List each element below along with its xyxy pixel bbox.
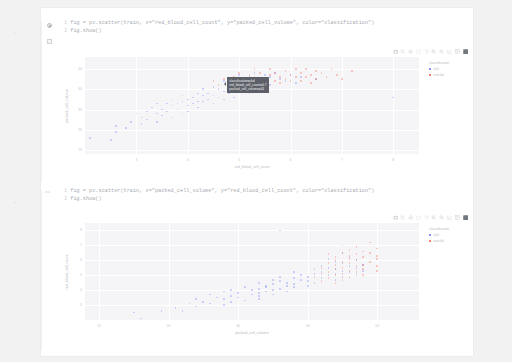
chart-legend-1[interactable]: classification ckd notckd [429,61,449,78]
scatter-point[interactable] [156,121,158,123]
autoscale-icon[interactable] [447,215,452,220]
scatter-point[interactable] [300,279,302,281]
plotly-modebar-2[interactable] [393,212,468,223]
scatter-point[interactable] [335,279,337,281]
scatter-point[interactable] [295,76,297,78]
scatter-point[interactable] [197,107,199,109]
scatter-point[interactable] [223,291,225,293]
plotly-figure-2[interactable]: classification ckd notckd 34567810203040… [59,212,471,342]
scatter-point[interactable] [238,74,240,76]
scatter-point[interactable] [269,74,271,76]
scatter-point[interactable] [342,267,344,269]
scatter-point[interactable] [195,306,197,308]
scatter-point[interactable] [307,280,309,282]
scatter-point[interactable] [300,76,302,78]
notebook-cell-1[interactable]: 1 fig = px.scatter(train, x="red_blood_c… [41,22,473,182]
run-indicator-icon[interactable] [47,23,52,28]
scatter-point[interactable] [130,121,132,123]
scatter-point[interactable] [349,255,351,257]
scatter-point[interactable] [310,82,312,84]
scatter-point[interactable] [223,304,225,306]
scatter-point[interactable] [286,291,288,293]
scatter-point[interactable] [125,127,127,129]
legend-entry-ckd[interactable]: ckd [429,67,449,71]
scatter-point[interactable] [115,125,117,127]
scatter-point[interactable] [140,318,142,320]
scatter-point[interactable] [279,276,281,278]
scatter-point[interactable] [156,113,158,115]
scatter-point[interactable] [376,258,378,260]
scatter-point[interactable] [258,282,260,284]
scatter-point[interactable] [223,298,225,300]
scatter-point[interactable] [307,285,309,287]
scatter-point[interactable] [356,253,358,255]
scatter-point[interactable] [89,137,91,139]
scatter-point[interactable] [182,310,184,312]
scatter-point[interactable] [285,70,287,72]
scatter-point[interactable] [315,78,317,80]
zoom-out-icon[interactable] [439,215,444,220]
gutter-collapse-marker-1[interactable]: — [14,30,17,34]
scatter-point[interactable] [342,261,344,263]
scatter-point[interactable] [356,271,358,273]
scatter-point[interactable] [286,285,288,287]
scatter-point[interactable] [202,101,204,103]
scatter-point[interactable] [264,74,266,76]
scatter-point[interactable] [349,258,351,260]
legend-entry-ckd[interactable]: ckd [429,233,449,237]
scatter-point[interactable] [295,68,297,70]
scatter-point[interactable] [362,256,364,258]
scatter-point[interactable] [223,99,225,101]
scatter-point[interactable] [326,76,328,78]
plotly-logo-icon[interactable] [463,49,468,54]
scatter-point[interactable] [182,113,184,115]
scatter-point[interactable] [274,80,276,82]
scatter-point[interactable] [213,86,215,88]
cell-1-code-line-2[interactable]: 2 fig.show() [64,28,102,36]
lasso-icon[interactable] [424,49,429,54]
scatter-point[interactable] [321,277,323,279]
scatter-point[interactable] [202,301,204,303]
scatter-point[interactable] [335,256,337,258]
legend-entry-notckd[interactable]: notckd [429,239,449,243]
scatter-point[interactable] [272,294,274,296]
scatter-point[interactable] [362,270,364,272]
scatter-point[interactable] [272,283,274,285]
scatter-point[interactable] [369,252,371,254]
scatter-point[interactable] [321,280,323,282]
scatter-point[interactable] [335,261,337,263]
scatter-point[interactable] [244,286,246,288]
scatter-point[interactable] [335,268,337,270]
scatter-point[interactable] [285,80,287,82]
scatter-point[interactable] [293,283,295,285]
scatter-point[interactable] [328,262,330,264]
scatter-point[interactable] [351,70,353,72]
scatter-point[interactable] [342,270,344,272]
reset-axes-icon[interactable] [455,49,460,54]
scatter-point[interactable] [209,294,211,296]
scatter-point[interactable] [230,295,232,297]
scatter-point[interactable] [161,310,163,312]
scatter-point[interactable] [349,249,351,251]
scatter-point[interactable] [177,103,179,105]
scatter-point[interactable] [336,74,338,76]
scatter-point[interactable] [172,117,174,119]
scatter-point[interactable] [314,276,316,278]
scatter-point[interactable] [175,307,177,309]
scatter-point[interactable] [342,252,344,254]
scatter-point[interactable] [341,78,343,80]
scatter-point[interactable] [269,68,271,70]
scatter-point[interactable] [195,298,197,300]
scatter-point[interactable] [258,288,260,290]
scatter-point[interactable] [161,115,163,117]
scatter-point[interactable] [342,262,344,264]
scatter-point[interactable] [362,251,364,253]
scatter-point[interactable] [172,105,174,107]
zoom-icon[interactable] [400,49,405,54]
scatter-point[interactable] [369,242,371,244]
scatter-point[interactable] [305,76,307,78]
zoom-out-icon[interactable] [439,49,444,54]
scatter-point[interactable] [223,91,225,93]
scatter-point[interactable] [314,282,316,284]
legend-entry-notckd[interactable]: notckd [429,73,449,77]
